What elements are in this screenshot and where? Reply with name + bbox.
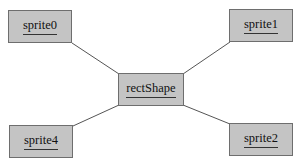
node-sprite2[interactable]: sprite2 xyxy=(229,123,293,156)
node-label: sprite0 xyxy=(23,18,57,35)
node-label: sprite2 xyxy=(244,131,278,148)
node-label: sprite4 xyxy=(24,133,58,150)
node-label: rectShape xyxy=(126,81,175,98)
edge-rectshape-sprite2 xyxy=(183,105,230,124)
node-sprite4[interactable]: sprite4 xyxy=(9,125,73,158)
node-rectshape[interactable]: rectShape xyxy=(118,73,184,106)
node-sprite1[interactable]: sprite1 xyxy=(229,9,293,42)
node-label: sprite1 xyxy=(244,17,278,34)
edge-rectshape-sprite1 xyxy=(183,42,230,74)
edge-rectshape-sprite0 xyxy=(72,43,119,74)
edge-rectshape-sprite4 xyxy=(73,105,119,126)
node-sprite0[interactable]: sprite0 xyxy=(8,10,72,43)
